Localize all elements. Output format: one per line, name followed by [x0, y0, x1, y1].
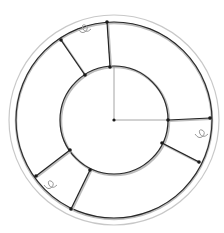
spoke-right-node-a [166, 118, 170, 122]
spoke-upper-left-node-b [83, 73, 87, 77]
circular-diagram [0, 0, 224, 233]
spoke-lower-left-a-shadow [37, 151, 71, 177]
spoke-lower-left-b-node-a [88, 168, 92, 172]
spoke-top-node-b [108, 65, 112, 69]
spoke-lower-left-b-node-b [69, 207, 73, 211]
spoke-lower-left-a [36, 150, 70, 176]
loop-right-icon [195, 130, 208, 138]
spoke-lower-left-a-node-b [34, 174, 38, 178]
spoke-top-node-a [105, 20, 109, 24]
spoke-lower-right-node-b [197, 160, 201, 164]
spoke-lower-left-b-shadow [72, 171, 91, 210]
spoke-lower-right [162, 143, 199, 162]
spoke-upper-left-node-a [59, 38, 63, 42]
spoke-lower-right-node-a [160, 141, 164, 145]
spoke-lower-left-b [71, 170, 90, 209]
spoke-right-node-b [208, 116, 212, 120]
loop-lower-left-icon [44, 181, 57, 189]
spoke-upper-left [61, 40, 85, 75]
diagram-canvas [0, 0, 224, 233]
spoke-lower-left-a-node-a [68, 148, 72, 152]
center-node [112, 118, 115, 121]
